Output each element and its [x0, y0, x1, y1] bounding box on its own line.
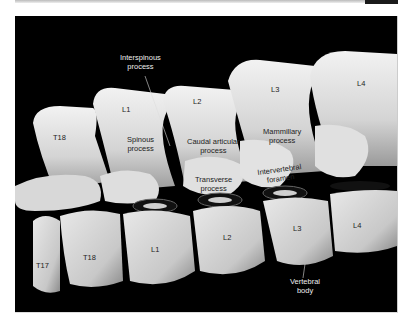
label-line: process — [187, 147, 240, 156]
top-rule — [15, 0, 365, 3]
label-spinous-t18: T18 — [53, 134, 66, 143]
label-spinous-l4: L4 — [357, 80, 365, 89]
label-spinous-l1: L1 — [122, 106, 130, 115]
top-corner-block — [365, 0, 398, 4]
label-line: body — [290, 287, 320, 296]
label-body-l1: L1 — [151, 246, 159, 255]
label-line: process — [195, 185, 232, 194]
ct-image-frame: Interspinous process T18 L1 L2 L3 L4 Spi… — [15, 16, 398, 313]
label-interspinous-process: Interspinous process — [120, 54, 161, 71]
label-spinous-process: Spinous process — [127, 136, 154, 153]
label-mammillary-process: Mammillary process — [263, 128, 301, 145]
vertebrae-illustration — [15, 16, 397, 312]
label-body-l4: L4 — [353, 222, 361, 231]
label-caudal-articular-process: Caudal articular process — [187, 138, 240, 155]
label-line: process — [263, 137, 301, 146]
label-spinous-l3: L3 — [271, 86, 279, 95]
label-line: process — [127, 145, 154, 154]
label-transverse-process: Transverse process — [195, 176, 232, 193]
label-vertebral-body: Vertebral body — [290, 278, 320, 295]
label-body-l3: L3 — [293, 225, 301, 234]
vertebral-body-leader-line — [303, 264, 305, 278]
label-spinous-l2: L2 — [193, 98, 201, 107]
label-body-t18: T18 — [83, 254, 96, 263]
label-body-l2: L2 — [223, 234, 231, 243]
label-line: process — [120, 63, 161, 72]
label-body-t17: T17 — [36, 262, 49, 271]
